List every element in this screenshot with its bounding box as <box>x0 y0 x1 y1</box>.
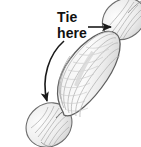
tie-label-line-2: here <box>57 26 87 41</box>
balloon-body <box>58 32 121 117</box>
tie-here-illustration: Tie here <box>0 0 141 147</box>
tie-label-line-1: Tie <box>57 10 77 25</box>
